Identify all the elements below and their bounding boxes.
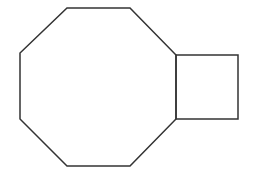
octagon-shape xyxy=(20,8,176,166)
figure-svg xyxy=(0,0,256,188)
square-shape xyxy=(176,55,238,119)
diagram-canvas xyxy=(0,0,256,188)
